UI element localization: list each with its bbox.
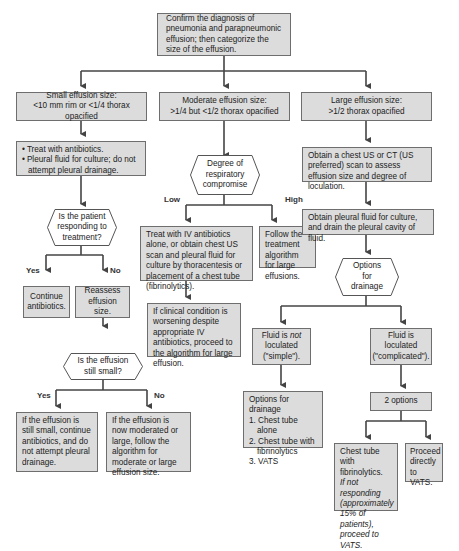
decision-responding-text: Is the patient responding to treatment? [47,209,117,246]
simple-options-title: Options for drainage [249,395,317,416]
simple-option-2: 2. Chest tube with fibrinolytics [249,437,317,458]
two-options-box: 2 options [370,392,432,411]
proceed-vats-text: Proceed directly to VATS. [410,447,441,487]
worsening-text: If clinical condition is worsening despi… [153,307,233,368]
worsening-box: If clinical condition is worsening despi… [147,303,241,357]
small-header-line1: Small effusion size: [46,91,116,101]
still-small-box: If the effusion is still small, continue… [16,412,98,472]
drain-box: Obtain pleural fluid for culture, and dr… [302,209,434,235]
label-yes-2: Yes [37,391,51,400]
start-box: Confirm the diagnosis of pneumonia and p… [157,13,291,56]
large-header-line2: >1/2 thorax opacified [328,107,404,117]
decision-drainage-options: Options for drainage [335,258,399,296]
small-treat-bullet-1: Treat with antibiotics. [22,145,140,155]
small-treat-box: Treat with antibiotics. Pleural fluid fo… [16,141,146,176]
low-compromise-text: Treat with IV antibiotics alone, or obta… [146,230,242,291]
decision-respiratory-text: Degree of respiratory compromise [190,155,260,195]
continue-antibiotics-text: Continue antibiotics. [27,292,66,313]
now-larger-box: If the effusion is now moderated or larg… [106,412,191,472]
simple-option-1: 1. Chest tube alone [249,416,317,437]
moderate-effusion-header: Moderate effusion size: >1/4 but <1/2 th… [159,92,290,121]
loculated-text: Fluid is loculated ("complicated"). [372,331,429,362]
label-high: High [285,195,303,204]
chest-tube-fibrinolytics-box: Chest tube with fibrinolytics. If not re… [334,443,398,511]
simple-drainage-options-box: Options for drainage 1. Chest tube alone… [243,391,323,448]
decision-still-small-text: Is the effusion still small? [63,353,143,380]
decision-responding: Is the patient responding to treatment? [47,209,117,246]
high-compromise-text: Follow the treatment algorithm for large… [265,230,302,281]
loculated-box: Fluid is loculated ("complicated"). [370,328,432,365]
label-yes: Yes [26,266,40,275]
not-loculated-text: Fluid is not loculated ("simple"). [258,331,305,362]
not-loculated-em: not [290,331,301,340]
simple-option-3: 3. VATS [249,457,317,467]
not-loculated-pre: Fluid is [262,331,290,340]
low-compromise-box: Treat with IV antibiotics alone, or obta… [140,226,253,281]
not-loculated-post: loculated ("simple"). [263,341,300,360]
large-header-line1: Large effusion size: [331,96,402,106]
reassess-box: Reassess effusion size. [75,286,130,318]
label-no: No [110,266,121,275]
small-treat-bullet-2: Pleural fluid for culture; do not attemp… [22,155,140,176]
moderate-header-line2: >1/4 but <1/2 thorax opacified [170,107,278,117]
label-low: Low [164,195,180,204]
proceed-vats-box: Proceed directly to VATS. [405,443,443,482]
reassess-text: Reassess effusion size. [81,286,124,317]
not-loculated-box: Fluid is not loculated ("simple"). [252,328,311,365]
decision-respiratory-compromise: Degree of respiratory compromise [190,155,260,195]
decision-drainage-text: Options for drainage [335,258,399,296]
fibrinolytics-main-text: Chest tube with fibrinolytics. [340,447,392,478]
moderate-header-line1: Moderate effusion size: [182,96,267,106]
now-larger-text: If the effusion is now moderated or larg… [112,416,178,477]
still-small-text: If the effusion is still small, continue… [22,416,91,467]
two-options-text: 2 options [384,396,417,406]
decision-still-small: Is the effusion still small? [63,353,143,380]
continue-antibiotics-box: Continue antibiotics. [23,286,70,318]
chest-scan-box: Obtain a chest US or CT (US preferred) s… [302,147,432,182]
start-text: Confirm the diagnosis of pneumonia and p… [166,14,282,56]
small-header-line2: <10 mm rim or <1/4 thorax opacified [22,101,141,122]
small-effusion-header: Small effusion size: <10 mm rim or <1/4 … [16,92,147,121]
fibrinolytics-note-text: If not responding (approximately 15% of … [340,478,392,551]
label-no-2: No [154,391,165,400]
large-effusion-header: Large effusion size: >1/2 thorax opacifi… [301,92,432,121]
